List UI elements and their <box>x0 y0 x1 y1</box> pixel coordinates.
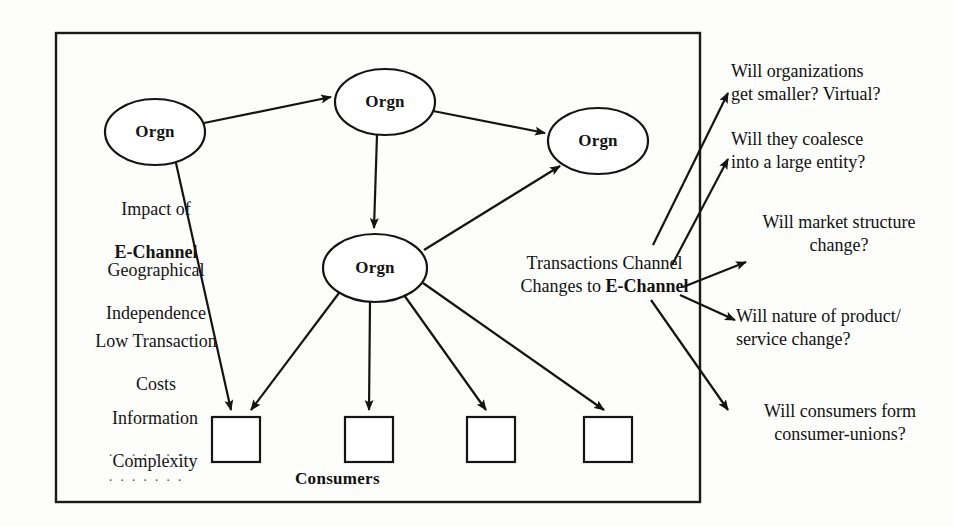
question-line-2: consumer-unions? <box>774 424 906 444</box>
note-line-1: Geographical <box>108 260 205 280</box>
arrow-to-question-5 <box>651 300 728 410</box>
question-line-2: into a large entity? <box>731 152 865 172</box>
question-line-1: Will nature of product/ <box>736 306 901 326</box>
question-line-1: Will they coalesce <box>731 129 863 149</box>
node-label-orgn-center: Orgn <box>323 258 427 278</box>
note-ellipsis-1: . . . . . . . <box>76 443 216 460</box>
transactions-line-2-prefix: Changes to <box>520 276 605 296</box>
question-line-2: service change? <box>736 329 850 349</box>
arrow-center-to-right <box>424 166 560 250</box>
question-line-1: Will organizations <box>731 61 863 81</box>
arrow-center-to-consumer-3 <box>404 295 486 410</box>
node-label-orgn-right: Orgn <box>548 131 648 151</box>
transactions-channel-label: Transactions Channel Changes to E-Channe… <box>497 252 712 297</box>
arrow-center-to-consumer-4 <box>423 283 604 410</box>
question-2: Will they coalesce into a large entity? <box>731 128 946 173</box>
node-label-orgn-top: Orgn <box>335 92 435 112</box>
arrow-center-to-consumer-1 <box>251 293 339 410</box>
arrow-to-question-1 <box>653 93 728 245</box>
arrow-top-to-center <box>374 135 377 228</box>
arrow-left-to-top <box>204 97 331 123</box>
consumer-box-2 <box>345 417 393 462</box>
question-4: Will nature of product/ service change? <box>736 305 951 350</box>
arrow-top-to-right <box>433 111 545 133</box>
note-line-1: Information <box>112 408 198 428</box>
note-ellipsis-2: . . . . . . . <box>76 468 216 485</box>
transactions-line-1: Transactions Channel <box>527 253 683 273</box>
transactions-line-2-bold: E-Channel <box>605 276 688 296</box>
node-label-orgn-left: Orgn <box>105 122 205 142</box>
consumers-label: Consumers <box>295 469 380 489</box>
consumer-box-3 <box>467 417 515 462</box>
consumer-box-1 <box>212 417 260 462</box>
question-line-2: change? <box>810 235 869 255</box>
diagram-page: Orgn Orgn Orgn Orgn Impact of E-Channel … <box>0 0 953 527</box>
question-5: Will consumers form consumer-unions? <box>733 400 947 445</box>
question-line-2: get smaller? Virtual? <box>731 84 881 104</box>
note-line-1: Impact of <box>121 199 190 219</box>
arrow-to-question-4 <box>680 295 735 320</box>
question-3: Will market structure change? <box>733 211 945 256</box>
question-line-1: Will consumers form <box>764 401 916 421</box>
consumer-box-4 <box>584 417 632 462</box>
question-line-1: Will market structure <box>762 212 915 232</box>
arrow-center-to-consumer-2 <box>369 302 370 410</box>
question-1: Will organizations get smaller? Virtual? <box>731 60 946 105</box>
note-line-1: Low Transaction <box>95 331 217 351</box>
